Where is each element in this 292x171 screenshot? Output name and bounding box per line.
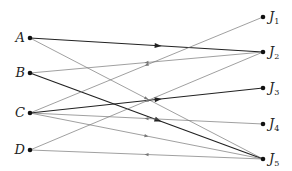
node-label-A: A: [15, 30, 25, 45]
label-subscript: 4: [274, 124, 279, 133]
edge-A-J2: [30, 38, 263, 52]
node-J5: [261, 157, 266, 162]
node-label-C: C: [15, 105, 25, 120]
label-subscript: 3: [274, 88, 279, 97]
arrow-icon: [145, 153, 149, 156]
node-C: [28, 111, 33, 116]
edges-group: [30, 17, 263, 159]
label-subscript: 1: [274, 17, 279, 26]
arrow-icon: [144, 134, 148, 137]
node-label-J5: J5: [266, 151, 279, 168]
arrow-icon: [154, 97, 161, 102]
node-J1: [261, 15, 266, 20]
labels-group: ABCDJ1J2J3J4J5: [14, 9, 280, 168]
node-label-D: D: [14, 142, 26, 157]
node-label-J2: J2: [266, 44, 279, 61]
node-D: [28, 148, 33, 153]
edge-B-J5: [30, 73, 263, 159]
label-subscript: 5: [274, 159, 279, 168]
node-J3: [261, 86, 266, 91]
nodes-group: [28, 15, 266, 162]
node-label-J3: J3: [266, 80, 279, 97]
node-J4: [261, 122, 266, 127]
node-B: [28, 71, 33, 76]
node-label-J4: J4: [266, 116, 279, 133]
arrow-icon: [155, 43, 162, 48]
node-J2: [261, 50, 266, 55]
node-label-B: B: [14, 65, 25, 80]
label-subscript: 2: [274, 52, 279, 61]
arrow-icon: [145, 117, 149, 120]
bipartite-graph: ABCDJ1J2J3J4J5: [0, 0, 292, 171]
node-label-J1: J1: [266, 9, 279, 26]
node-A: [28, 36, 33, 41]
